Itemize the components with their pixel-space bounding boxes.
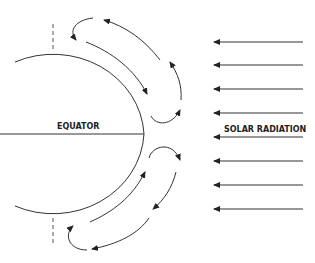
south-cell-bottom-curl-arrow <box>68 226 87 250</box>
north-inner-cell-rising-arrow <box>170 62 181 100</box>
south-cell-upper-arrow <box>92 218 149 249</box>
north-cell-top-curl-arrow <box>73 18 93 40</box>
north-inner-cell-curl-arrow <box>151 110 180 123</box>
south-inner-cell-sinking-arrow <box>153 172 176 209</box>
south-cell-surface-arrow <box>90 172 145 222</box>
south-inner-cell-curl-arrow <box>149 147 180 160</box>
atmospheric-circulation-diagram: EQUATOR SOLAR RADIATION <box>0 0 315 263</box>
north-cell-surface-arrow <box>86 42 147 94</box>
solar-radiation-label: SOLAR RADIATION <box>224 125 306 134</box>
north-cell-upper-arrow <box>104 20 160 60</box>
equator-label: EQUATOR <box>57 122 100 131</box>
